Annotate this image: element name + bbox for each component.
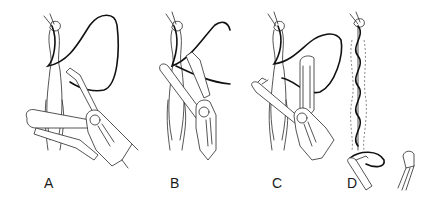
surgical-diagram: A B C D bbox=[0, 0, 432, 203]
panel-label-b: B bbox=[170, 176, 179, 190]
panel-label-d: D bbox=[347, 176, 357, 190]
panel-b-drawing bbox=[160, 12, 230, 160]
panel-c-drawing bbox=[252, 12, 342, 160]
panel-label-c: C bbox=[272, 176, 282, 190]
panel-d-drawing bbox=[348, 12, 414, 190]
panel-label-a: A bbox=[44, 176, 53, 190]
diagram-artwork bbox=[0, 0, 432, 203]
panel-a-drawing bbox=[26, 14, 138, 168]
